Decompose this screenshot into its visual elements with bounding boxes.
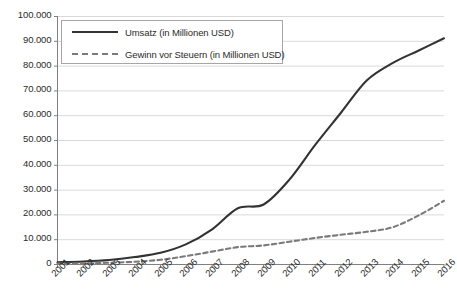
chart-legend: Umsatz (in Millionen USD) Gewinn vor Ste… <box>61 20 283 64</box>
legend-label-umsatz: Umsatz (in Millionen USD) <box>125 27 234 38</box>
y-tick-label: 50.000 <box>23 133 51 144</box>
y-tick-label: 100.000 <box>18 9 52 20</box>
y-tick-label: 60.000 <box>23 108 51 119</box>
y-tick-label: 10.000 <box>23 232 51 243</box>
y-tick-label: 90.000 <box>23 34 51 45</box>
y-tick-label: 70.000 <box>23 83 51 94</box>
legend-label-gewinn: Gewinn vor Steuern (in Millionen USD) <box>125 49 284 60</box>
y-tick-label: 80.000 <box>23 59 51 70</box>
y-tick-label: 20.000 <box>23 207 51 218</box>
legend-line-swatch-dashed-icon <box>72 48 118 60</box>
series-line-gewinn <box>58 201 445 264</box>
legend-item-umsatz: Umsatz (in Millionen USD) <box>62 21 282 43</box>
y-tick-label: 30.000 <box>23 183 51 194</box>
y-tick-label: 40.000 <box>23 158 51 169</box>
y-tick-marks <box>54 17 58 265</box>
legend-line-swatch-solid-icon <box>72 26 118 38</box>
y-tick-label: 0 <box>46 257 51 268</box>
legend-item-gewinn: Gewinn vor Steuern (in Millionen USD) <box>62 43 282 65</box>
